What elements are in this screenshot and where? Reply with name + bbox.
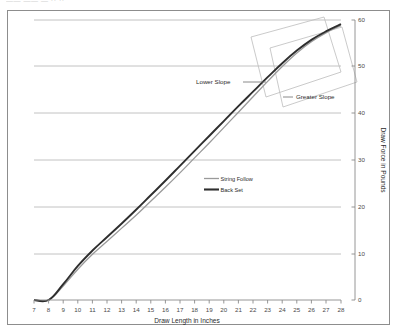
y-axis: 0 10 20 30 40 50 60 Draw Force in Pounds [352, 16, 388, 303]
ytick-label-10: 10 [358, 250, 365, 257]
y-axis-title: Draw Force in Pounds [380, 127, 387, 193]
xtick-label-27: 27 [323, 306, 330, 313]
xtick-label-26: 26 [308, 306, 315, 313]
legend-label-string-follow: String Follow [221, 176, 254, 182]
xtick-label-15: 15 [147, 306, 154, 313]
xtick-label-9: 9 [61, 306, 65, 313]
xtick-label-7: 7 [32, 306, 36, 313]
legend-label-back-set: Back Set [221, 187, 244, 193]
ytick-label-30: 30 [358, 156, 365, 163]
xtick-label-28: 28 [338, 306, 345, 313]
xtick-label-17: 17 [177, 306, 184, 313]
ytick-label-60: 60 [358, 16, 365, 23]
xtick-label-12: 12 [104, 306, 111, 313]
xtick-label-22: 22 [250, 306, 257, 313]
chart-svg: 7 8 9 10 11 12 13 14 15 16 17 18 19 20 2… [0, 0, 398, 335]
chart-plot-area: 7 8 9 10 11 12 13 14 15 16 17 18 19 20 2… [0, 0, 398, 335]
chart-legend: String Follow Back Set [204, 176, 254, 193]
x-axis: 7 8 9 10 11 12 13 14 15 16 17 18 19 20 2… [32, 300, 345, 325]
curve-string-follow [34, 26, 341, 302]
string-follow-path [34, 26, 341, 302]
xtick-label-10: 10 [74, 306, 81, 313]
xtick-label-11: 11 [89, 306, 96, 313]
xtick-label-21: 21 [235, 306, 242, 313]
xtick-label-24: 24 [279, 306, 286, 313]
x-axis-title: Draw Length in Inches [154, 317, 220, 325]
xtick-label-8: 8 [47, 306, 51, 313]
xtick-label-20: 20 [220, 306, 227, 313]
xtick-label-25: 25 [293, 306, 300, 313]
xtick-label-18: 18 [191, 306, 198, 313]
xtick-label-14: 14 [133, 306, 140, 313]
xtick-label-19: 19 [206, 306, 213, 313]
greater-slope-annotation: Greater Slope [296, 93, 335, 100]
ytick-label-50: 50 [358, 62, 365, 69]
xtick-label-16: 16 [162, 306, 169, 313]
ytick-label-20: 20 [358, 203, 365, 210]
ytick-label-40: 40 [358, 109, 365, 116]
xtick-label-13: 13 [118, 306, 125, 313]
lower-slope-annotation: Lower Slope [196, 78, 231, 85]
ytick-label-0: 0 [358, 296, 362, 303]
xtick-label-23: 23 [264, 306, 271, 313]
